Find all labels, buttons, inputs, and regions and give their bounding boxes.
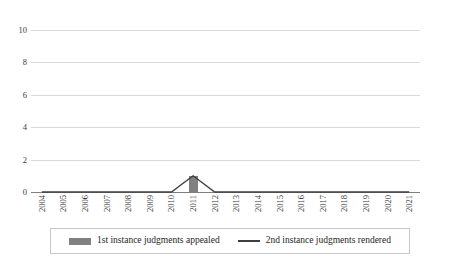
x-axis-tick-label: 2018: [334, 194, 356, 228]
x-axis-tick-label: 2019: [355, 194, 377, 228]
y-axis-tick-label: 8: [3, 58, 27, 67]
x-axis-tick-label: 2016: [290, 194, 312, 228]
x-axis-tick-label: 2006: [74, 194, 96, 228]
x-axis-tick-label: 2015: [269, 194, 291, 228]
x-axis-tick-label: 2020: [377, 194, 399, 228]
x-axis-tick-label: 2017: [312, 194, 334, 228]
legend-item-line: 2nd instance judgments rendered: [238, 236, 391, 246]
x-axis-tick-label: 2010: [161, 194, 183, 228]
x-axis-tick-label: 2008: [117, 194, 139, 228]
legend-label-bar: 1st instance judgments appealed: [97, 236, 220, 246]
x-axis-tick-label: 2014: [247, 194, 269, 228]
y-axis-tick-label: 0: [3, 188, 27, 197]
legend-item-bar: 1st instance judgments appealed: [69, 236, 220, 246]
legend-line-swatch-icon: [238, 240, 260, 242]
y-axis-tick-label: 2: [3, 155, 27, 164]
legend-bar-swatch-icon: [69, 238, 91, 245]
line-path-svg: [31, 30, 420, 192]
chart-legend: 1st instance judgments appealed 2nd inst…: [50, 228, 410, 254]
x-axis-tick-label: 2009: [139, 194, 161, 228]
x-axis: 2004200520062007200820092010201120122013…: [31, 194, 420, 228]
x-axis-tick-label: 2021: [398, 194, 420, 228]
x-axis-tick-label: 2004: [31, 194, 53, 228]
line-series-2nd-instance-judgments-rendered: [31, 30, 420, 192]
legend-label-line: 2nd instance judgments rendered: [266, 236, 391, 246]
x-axis-tick-label: 2013: [226, 194, 248, 228]
y-axis-tick-label: 10: [3, 26, 27, 35]
x-axis-tick-label: 2011: [182, 194, 204, 228]
x-axis-tick-label: 2005: [53, 194, 75, 228]
y-axis-tick-label: 4: [3, 123, 27, 132]
y-axis: 0246810: [0, 30, 27, 192]
x-axis-tick-label: 2012: [204, 194, 226, 228]
y-axis-tick-label: 6: [3, 91, 27, 100]
combo-bar-line-chart: 0246810 20042005200620072008200920102011…: [0, 0, 452, 270]
plot-area: [31, 30, 420, 192]
x-axis-tick-label: 2007: [96, 194, 118, 228]
